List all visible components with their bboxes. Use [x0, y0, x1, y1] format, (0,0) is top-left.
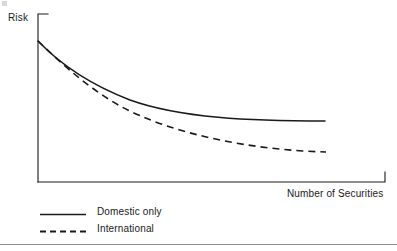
- dashed-line-swatch: [40, 230, 86, 233]
- series-line-domestic-only: [38, 41, 325, 121]
- y-axis-line: [38, 14, 48, 182]
- footer-divider: [0, 244, 397, 245]
- chart-legend: Domestic only International: [40, 206, 240, 240]
- legend-label-domestic-only: Domestic only: [97, 206, 162, 217]
- legend-item-domestic-only: Domestic only: [40, 206, 240, 223]
- x-axis-line: [38, 172, 385, 182]
- x-axis-title: Number of Securities: [287, 188, 383, 199]
- legend-item-international: International: [40, 223, 240, 240]
- y-axis-title: Risk: [8, 12, 28, 23]
- solid-line-swatch: [40, 213, 86, 216]
- legend-label-international: International: [97, 223, 154, 234]
- chart-figure: Risk Number of Securities Domestic only …: [0, 0, 397, 251]
- series-line-international: [38, 41, 326, 152]
